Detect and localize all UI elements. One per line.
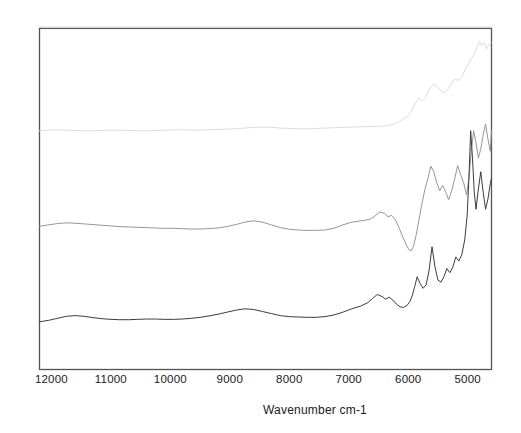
x-tick-label-12000: 12000 [35,373,68,385]
x-tick-label-6000: 6000 [395,373,421,385]
spectra-chart: 12000110001000090008000700060005000 Wave… [0,0,521,433]
x-tick-label-11000: 11000 [95,373,127,385]
x-tick-label-5000: 5000 [455,373,481,385]
figure-container: 12000110001000090008000700060005000 Wave… [0,0,521,433]
x-axis-title: Wavenumber cm-1 [263,403,367,417]
x-tick-label-10000: 10000 [154,373,187,385]
x-tick-label-8000: 8000 [276,373,302,385]
x-tick-label-9000: 9000 [217,373,243,385]
chart-background [0,0,521,433]
x-tick-label-7000: 7000 [336,373,362,385]
